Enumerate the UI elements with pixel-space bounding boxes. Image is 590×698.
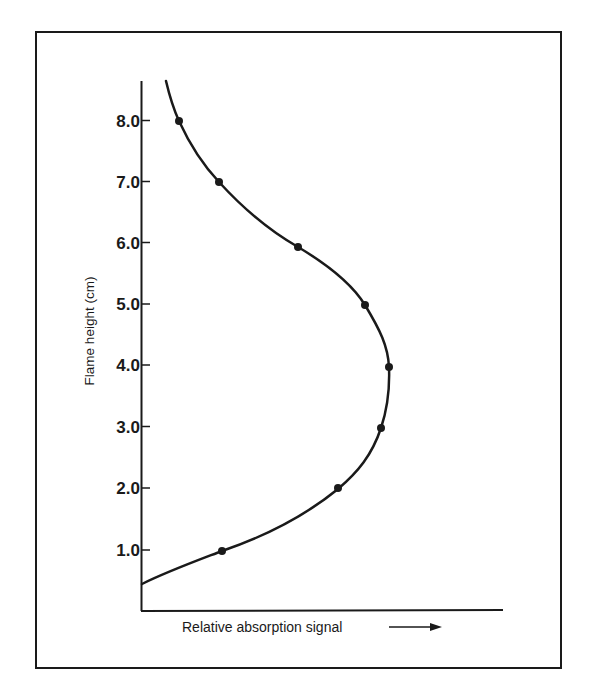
y-tick-label-7: 7.0 <box>116 173 140 192</box>
y-tick-label-2: 2.0 <box>116 479 140 498</box>
y-tick-label-8: 8.0 <box>116 112 140 131</box>
y-tick-label-6: 6.0 <box>116 234 140 253</box>
data-point-8 <box>175 117 183 125</box>
data-markers <box>175 117 393 555</box>
x-axis-arrow-icon <box>389 623 442 631</box>
y-tick-label-1: 1.0 <box>116 541 140 560</box>
flame-height-chart: 8.0 7.0 6.0 5.0 4.0 3.0 2.0 1.0 Flame he… <box>0 0 590 698</box>
data-point-2 <box>334 484 342 492</box>
y-tick-label-5: 5.0 <box>116 295 140 314</box>
y-tick-label-4: 4.0 <box>116 356 140 375</box>
y-axis-label: Flame height (cm) <box>82 277 97 386</box>
x-axis-label: Relative absorption signal <box>182 619 342 635</box>
y-tick-label-3: 3.0 <box>116 418 140 437</box>
x-axis <box>141 610 503 611</box>
figure-frame <box>36 32 561 668</box>
absorption-curve <box>142 81 389 584</box>
data-point-5 <box>361 301 369 309</box>
y-tick-labels: 8.0 7.0 6.0 5.0 4.0 3.0 2.0 1.0 <box>116 112 140 561</box>
data-point-3 <box>377 424 385 432</box>
data-point-1 <box>218 547 226 555</box>
data-point-7 <box>215 178 223 186</box>
data-point-4 <box>385 363 393 371</box>
data-point-6 <box>294 243 302 251</box>
